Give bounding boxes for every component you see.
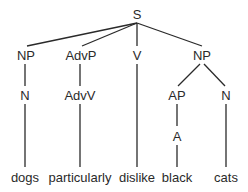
tree-canvas: S NP AdvP V NP N AdvV AP N A dogs partic… [0,0,248,192]
word-dislike: dislike [119,170,155,185]
word-particularly: particularly [49,170,112,185]
node-ap: AP [168,88,185,103]
word-cats: cats [214,170,238,185]
node-n-object: N [221,88,230,103]
node-advv: AdvV [64,88,95,103]
tree-leaves: dogs particularly dislike black cats [11,170,239,185]
syntax-tree-diagram: S NP AdvP V NP N AdvV AP N A dogs partic… [0,0,248,192]
edge-np2-ap [178,64,200,86]
node-s: S [133,7,142,22]
node-a: A [173,129,182,144]
node-advp: AdvP [65,48,96,63]
edge-np2-n2 [204,64,225,86]
node-n-subject: N [20,88,29,103]
word-dogs: dogs [11,170,40,185]
tree-edges [25,23,226,167]
edge-s-np1 [27,23,137,46]
node-v: V [133,48,142,63]
tree-nodes: S NP AdvP V NP N AdvV AP N A [17,7,231,144]
edge-s-advp [82,23,137,46]
word-black: black [162,170,193,185]
node-np-subject: NP [17,48,35,63]
edge-s-np2 [137,23,202,46]
node-np-object: NP [193,48,211,63]
